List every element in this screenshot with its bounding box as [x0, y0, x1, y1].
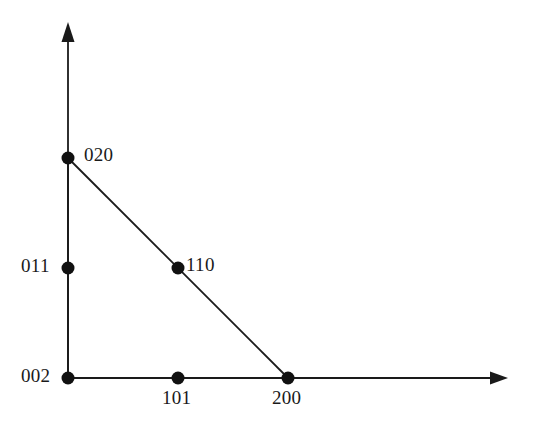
figure-canvas: 020 011 002 110 101 200	[0, 0, 542, 431]
point-label-011: 011	[21, 256, 50, 275]
axes-group	[62, 22, 509, 385]
point-101	[172, 372, 185, 385]
point-label-200: 200	[272, 388, 301, 407]
point-011	[62, 262, 75, 275]
lattice-point-diagram	[0, 0, 542, 431]
point-200	[282, 372, 295, 385]
point-label-110: 110	[186, 255, 215, 274]
x-axis-arrowhead-icon	[490, 372, 508, 385]
point-020	[62, 152, 75, 165]
point-label-002: 002	[21, 366, 50, 385]
point-label-101: 101	[162, 388, 191, 407]
point-002	[62, 372, 75, 385]
point-label-020: 020	[84, 145, 113, 164]
point-110	[172, 262, 185, 275]
y-axis-arrowhead-icon	[62, 22, 75, 42]
